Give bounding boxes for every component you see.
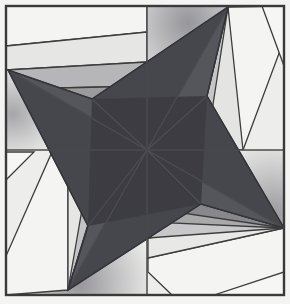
pinwheel-star-illustration — [0, 0, 290, 304]
artboard — [0, 0, 290, 304]
block-content — [6, 6, 284, 295]
